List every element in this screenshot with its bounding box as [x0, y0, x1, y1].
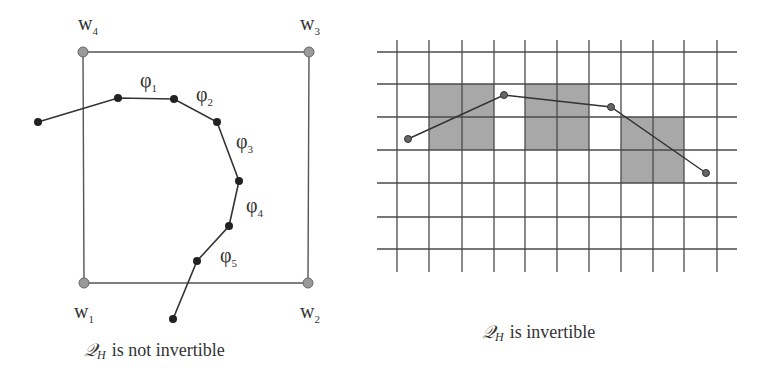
node-point: [169, 315, 177, 323]
node-point: [170, 95, 178, 103]
corner-label-w4: w4: [78, 12, 98, 37]
curve-polyline: [38, 98, 239, 319]
corner-vertex: [304, 47, 314, 57]
right-caption-text: is invertible: [510, 322, 595, 342]
q-symbol: 𝒬: [482, 321, 495, 342]
node-point: [193, 257, 201, 265]
node-point: [225, 222, 233, 230]
segment-label-phi2: φ2: [196, 83, 213, 108]
q-symbol: 𝒬: [84, 339, 97, 360]
left-caption: 𝒬His not invertible: [84, 339, 225, 361]
node-point: [405, 136, 412, 143]
q-subscript: H: [495, 330, 504, 344]
corner-vertex: [303, 278, 313, 288]
corner-label-w3: w3: [300, 12, 320, 37]
left-caption-text: is not invertible: [112, 340, 225, 360]
node-point: [213, 118, 221, 126]
node-point: [235, 177, 243, 185]
diagram-canvas: w4w3w1w2φ1φ2φ3φ4φ5: [0, 0, 761, 379]
corner-vertex: [78, 47, 88, 57]
q-subscript: H: [97, 348, 106, 362]
right-caption: 𝒬His invertible: [482, 321, 595, 343]
left-panel-not-invertible: w4w3w1w2φ1φ2φ3φ4φ5: [34, 12, 320, 325]
node-point: [608, 104, 615, 111]
segment-label-phi1: φ1: [140, 69, 157, 94]
corner-label-w1: w1: [74, 300, 94, 325]
node-point: [703, 170, 710, 177]
corner-vertex: [79, 278, 89, 288]
segment-label-phi3: φ3: [236, 130, 254, 155]
segment-label-phi4: φ4: [246, 194, 264, 219]
node-point: [34, 118, 42, 126]
corner-label-w2: w2: [300, 300, 320, 325]
node-point: [501, 92, 508, 99]
right-panel-invertible: [377, 40, 737, 272]
node-point: [114, 94, 122, 102]
segment-label-phi5: φ5: [220, 244, 238, 269]
